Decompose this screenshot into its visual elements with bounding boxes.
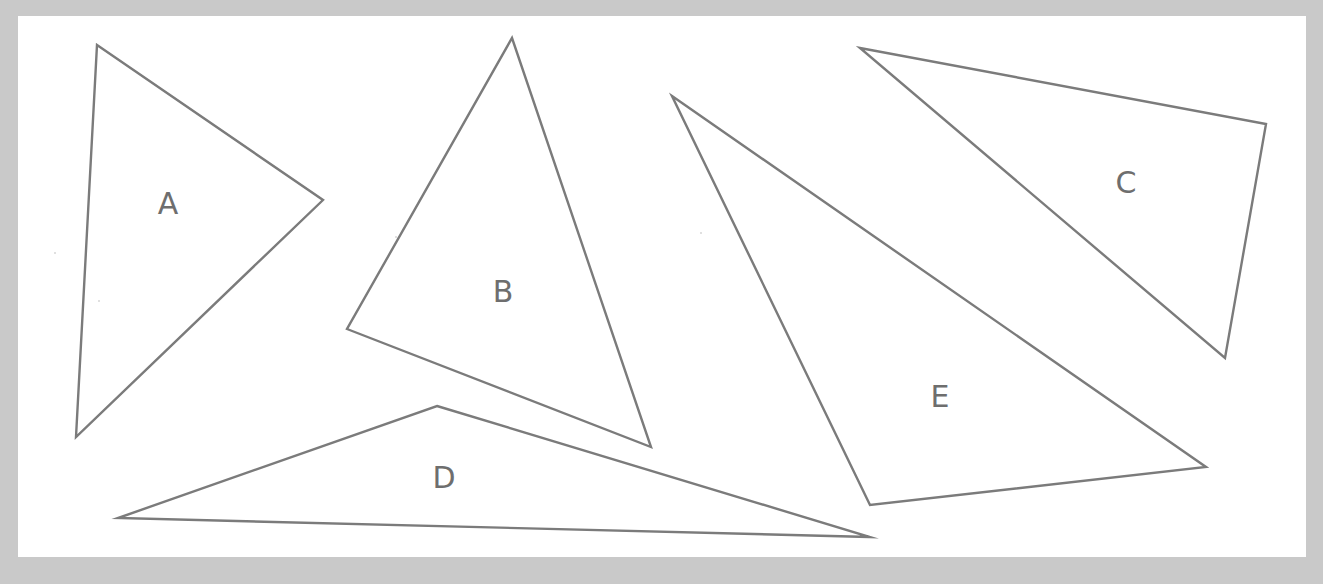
shape-group-a[interactable]: A [76,45,323,437]
scan-speck [98,300,100,302]
shape-group-c[interactable]: C [860,48,1266,358]
triangle-d-label: D [432,460,455,495]
triangle-e-outline[interactable] [672,96,1206,505]
triangle-e-label: E [931,379,950,414]
triangle-b-label: B [493,274,514,309]
triangle-d-outline[interactable] [118,406,870,537]
shape-group-d[interactable]: D [118,406,870,537]
scan-speck [54,252,56,254]
triangle-a-outline[interactable] [76,45,323,437]
shape-group-b[interactable]: B [347,38,651,447]
triangle-a-label: A [158,186,179,221]
scan-speck [700,232,702,234]
triangle-c-label: C [1116,165,1137,200]
diagram-canvas: A B C D E [0,0,1323,584]
triangle-c-outline[interactable] [860,48,1266,358]
scan-speck [395,236,397,238]
triangles-svg: A B C D E [0,0,1323,584]
shape-group-e[interactable]: E [672,96,1206,505]
triangle-b-outline[interactable] [347,38,651,447]
